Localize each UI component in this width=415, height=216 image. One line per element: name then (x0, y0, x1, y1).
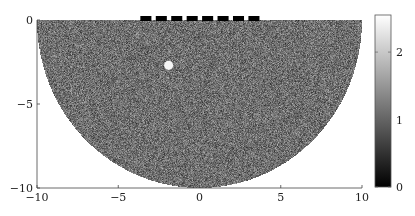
electrode-group (140, 16, 259, 21)
x-tick-label: −5 (110, 191, 126, 204)
chart: −10−50510 0−5−10 012 (0, 0, 415, 216)
x-tick-label: 10 (355, 191, 369, 204)
y-tick-label: −5 (17, 98, 33, 111)
colorbar-tick-label: 2 (396, 46, 403, 59)
y-ticks: 0−5−10 (10, 14, 40, 195)
colorbar-ticks: 012 (375, 46, 403, 194)
electrode-1 (140, 16, 151, 21)
colorbar-frame (375, 15, 391, 187)
y-tick-label: 0 (26, 14, 33, 27)
colorbar-tick-label: 1 (396, 114, 403, 127)
electrode-5 (202, 16, 213, 21)
electrode-8 (248, 16, 259, 21)
y-tick-label: −10 (10, 182, 33, 195)
electrode-7 (233, 16, 244, 21)
x-tick-label: 5 (277, 191, 284, 204)
electrode-2 (156, 16, 167, 21)
x-tick-label: 0 (196, 191, 203, 204)
colorbar-tick-label: 0 (396, 181, 403, 194)
electrode-4 (187, 16, 198, 21)
electrode-3 (171, 16, 182, 21)
electrode-6 (218, 16, 229, 21)
inclusion-marker (164, 61, 173, 70)
